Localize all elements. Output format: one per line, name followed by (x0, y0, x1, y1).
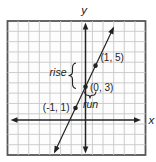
point-label-0-3: (0, 3) (90, 82, 113, 93)
plot-area-border (8, 21, 146, 155)
point-label-1-5: (1, 5) (101, 52, 124, 63)
coordinate-plane-svg: y x (1, 5) (0, 3) (-1, 1) rise run (0, 0, 155, 162)
data-point (93, 63, 98, 68)
rise-label: rise (50, 66, 67, 78)
x-axis-label: x (148, 114, 156, 126)
data-point (83, 85, 88, 90)
run-label: run (83, 98, 98, 110)
y-axis-label: y (80, 4, 88, 16)
point-label-neg1-1: (-1, 1) (43, 102, 70, 113)
data-point (73, 106, 78, 111)
slope-graph-figure: y x (1, 5) (0, 3) (-1, 1) rise run (0, 0, 155, 162)
